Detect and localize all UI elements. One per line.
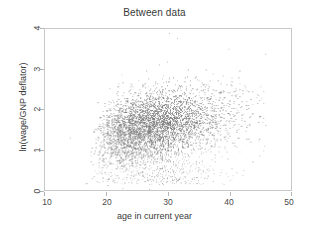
x-tick-mark — [44, 192, 45, 196]
x-tick-mark — [106, 192, 107, 196]
x-axis-label: age in current year — [0, 211, 309, 221]
plot-area — [44, 28, 292, 191]
y-axis-label: ln(wage/GNP deflator) — [17, 27, 29, 187]
x-tick-label: 40 — [214, 197, 244, 207]
x-tick-mark — [291, 192, 292, 196]
y-tick-label: 3 — [30, 62, 44, 76]
y-tick-label: 2 — [30, 102, 44, 116]
x-tick-mark — [168, 192, 169, 196]
y-tick-label: 4 — [30, 21, 44, 35]
x-tick-label: 50 — [274, 197, 304, 207]
x-tick-mark — [230, 192, 231, 196]
x-tick-label: 30 — [153, 197, 183, 207]
scatter-plot-figure: Between data 10 20 30 40 50 age in curre… — [0, 0, 309, 236]
chart-title: Between data — [0, 7, 309, 18]
y-tick-label: 1 — [30, 143, 44, 157]
x-tick-label: 10 — [32, 197, 62, 207]
x-tick-label: 20 — [92, 197, 122, 207]
scatter-points-canvas — [45, 29, 291, 190]
y-tick-label: 0 — [30, 184, 44, 198]
